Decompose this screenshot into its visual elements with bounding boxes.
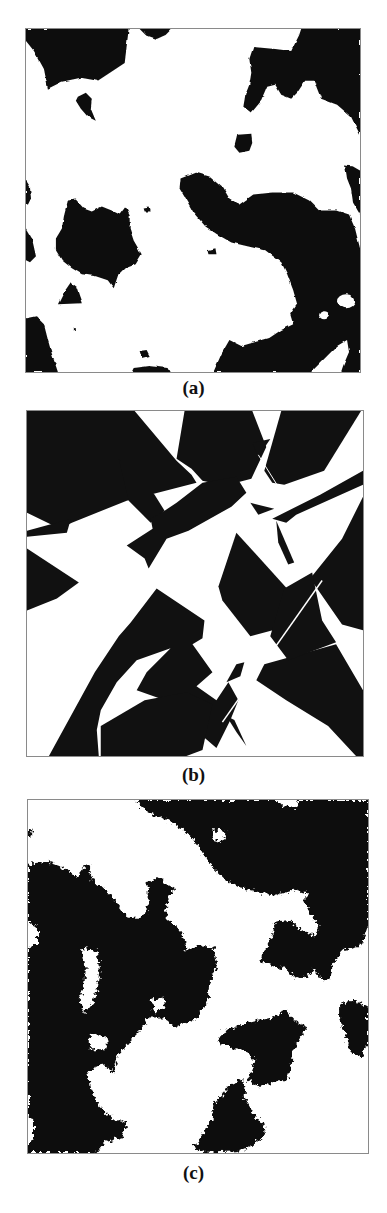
panel-b-texture <box>27 411 363 756</box>
hole-right-2 <box>319 311 329 319</box>
panel-a-image <box>25 28 361 373</box>
blob-bottom-left <box>26 316 58 372</box>
panel-a-label: (a) <box>0 378 387 398</box>
blob-top-left <box>26 29 129 89</box>
blob-upper-left-small <box>76 93 96 121</box>
poly-top-right <box>264 411 361 485</box>
panel-b-label: (b) <box>0 765 387 785</box>
cluster-right-edge <box>339 999 368 1057</box>
cluster-left-large <box>28 862 217 1153</box>
panel-c-label: (c) <box>0 1163 387 1183</box>
dot-3 <box>207 248 216 254</box>
poly-small-mid <box>250 503 274 515</box>
bit-left-top <box>28 828 33 836</box>
poly-right-thin <box>276 521 294 565</box>
blob-right-edge-small <box>345 166 360 215</box>
cluster-bottom-middle <box>194 1079 266 1153</box>
hole-bottom-left <box>28 1117 34 1143</box>
panel-a-texture <box>26 29 360 372</box>
blob-mid-upper <box>234 134 252 153</box>
blob-left-edge-1 <box>26 181 31 205</box>
poly-small-x <box>226 662 244 682</box>
dot-1 <box>73 328 76 331</box>
poly-bottom-mid <box>101 692 213 756</box>
hole-right-1 <box>337 294 355 308</box>
panel-c-image <box>27 799 369 1154</box>
panel-b-image <box>26 410 364 757</box>
dot-2 <box>144 207 151 211</box>
blob-top-right <box>243 29 360 135</box>
poly-small-bottom <box>226 716 246 746</box>
blob-left-edge-2 <box>26 228 36 262</box>
blob-bottom-edge <box>132 366 170 372</box>
blob-right-large <box>180 173 360 372</box>
poly-right-lower <box>256 644 363 756</box>
poly-left-lower <box>27 549 79 611</box>
cluster-middle <box>217 1009 307 1087</box>
blob-bottom-small <box>140 350 150 358</box>
blob-left-cat <box>56 200 142 289</box>
panel-c-texture <box>28 800 368 1153</box>
blob-top-small <box>140 29 172 39</box>
blob-triangle <box>58 282 82 304</box>
hole-center <box>152 997 166 1011</box>
cluster-mid-right <box>259 920 323 980</box>
hole-left-2 <box>28 924 38 948</box>
